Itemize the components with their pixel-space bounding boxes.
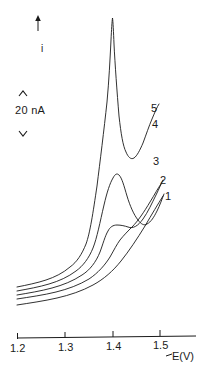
curve-label-4: 4: [152, 119, 158, 130]
x-tick-label-3: 1.4: [106, 341, 121, 352]
voltammogram-figure: i 20 nA 5 4 3 2 1 1.2 1.3 1.4 1.5 E(V): [0, 0, 215, 375]
scale-bar-down-arrow-icon: [19, 131, 27, 136]
x-axis-line: [17, 336, 196, 338]
curve-4: [17, 174, 164, 291]
current-axis-arrow-icon: [35, 15, 41, 31]
curve-1: [17, 196, 163, 305]
x-tick-label-2: 1.3: [58, 342, 73, 353]
x-tick-label-4: 1.5: [153, 340, 168, 351]
curve-label-1: 1: [165, 191, 171, 202]
curve-3: [17, 180, 163, 295]
curve-label-2: 2: [160, 175, 166, 186]
curve-5: [17, 18, 159, 287]
scale-bar-up-arrow-icon: [19, 91, 27, 96]
curve-label-3: 3: [153, 156, 159, 167]
x-axis-label: E(V): [172, 351, 194, 362]
chart-plot-area: [0, 0, 215, 375]
curve-label-5: 5: [151, 103, 157, 114]
x-tick-label-1: 1.2: [10, 343, 25, 354]
scale-bar-label: 20 nA: [15, 105, 45, 116]
current-axis-symbol: i: [41, 44, 43, 54]
